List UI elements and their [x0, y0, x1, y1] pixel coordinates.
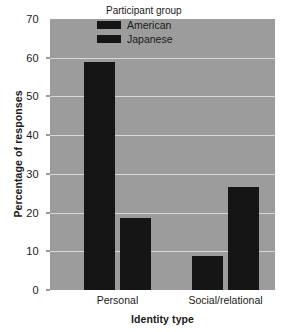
legend-item-american: American: [97, 19, 221, 31]
gridline: [50, 58, 275, 59]
bar-chart: Percentage of responses 010203040506070 …: [0, 0, 288, 332]
x-tick-label: Personal: [97, 294, 138, 306]
legend: Participant group American Japanese: [97, 5, 221, 47]
legend-label-american: American: [127, 19, 171, 31]
y-tick-label: 60: [0, 52, 39, 64]
legend-swatch-american: [97, 21, 121, 29]
y-tick-label: 40: [0, 129, 39, 141]
legend-swatch-japanese: [97, 35, 121, 43]
bar-personal-japanese: [120, 218, 151, 290]
x-axis-title: Identity type: [50, 313, 275, 325]
y-tick-label: 0: [0, 284, 39, 296]
y-tick-label: 10: [0, 245, 39, 257]
y-axis-ticks: 010203040506070: [0, 0, 46, 332]
bar-social-relational-american: [192, 256, 223, 290]
legend-item-japanese: Japanese: [97, 33, 221, 45]
legend-title: Participant group: [97, 5, 221, 16]
legend-label-japanese: Japanese: [127, 33, 173, 45]
bar-social-relational-japanese: [228, 187, 259, 290]
y-tick-label: 30: [0, 168, 39, 180]
y-tick-label: 20: [0, 207, 39, 219]
bar-personal-american: [84, 62, 115, 290]
y-tick-label: 70: [0, 13, 39, 25]
x-tick-label: Social/relational: [188, 294, 262, 306]
plot-area: [50, 19, 275, 290]
y-tick-label: 50: [0, 90, 39, 102]
